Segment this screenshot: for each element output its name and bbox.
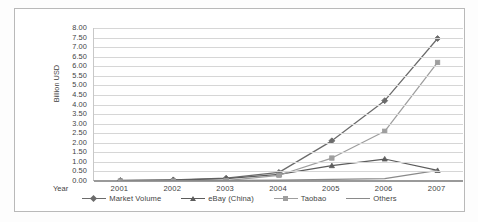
- y-tick-label: 7.50: [72, 34, 87, 42]
- y-tick-label: 1.00: [72, 158, 87, 166]
- data-point: [435, 60, 439, 64]
- y-tick-label: 2.50: [72, 129, 87, 137]
- gridline: [94, 47, 463, 48]
- gridline: [94, 95, 463, 96]
- y-tick-label: 5.00: [72, 81, 87, 89]
- series-line: [120, 39, 437, 181]
- data-point: [277, 173, 281, 177]
- y-tick-label: 7.00: [72, 43, 87, 51]
- y-tick-label: 8.00: [72, 24, 87, 32]
- series-line: [120, 62, 437, 181]
- y-tick-label: 4.00: [72, 101, 87, 109]
- y-tick-label: 6.00: [72, 62, 87, 70]
- gridline: [94, 114, 463, 115]
- y-tick-label: 2.00: [72, 139, 87, 147]
- y-tick-label: 4.50: [72, 91, 87, 99]
- gridline: [94, 28, 463, 29]
- chart-frame: Billion USD 8.007.507.006.506.005.505.00…: [14, 8, 465, 212]
- gridline: [94, 57, 463, 58]
- chart-legend: Market VolumeeBay (China)TaobaoOthers: [14, 191, 465, 205]
- gridline: [94, 181, 463, 182]
- gridline: [94, 85, 463, 86]
- legend-item-taobao[interactable]: Taobao: [274, 194, 327, 203]
- y-tick-label: 6.50: [72, 53, 87, 61]
- legend-swatch-ebay-china: [181, 194, 205, 203]
- legend-label: eBay (China): [208, 194, 254, 203]
- legend-item-ebay-china[interactable]: eBay (China): [181, 194, 254, 203]
- data-point: [330, 156, 334, 160]
- gridline: [94, 152, 463, 153]
- y-tick-label: 1.50: [72, 148, 87, 156]
- legend-swatch-market-volume: [82, 194, 106, 203]
- series-taobao: [118, 60, 440, 181]
- legend-item-market-volume[interactable]: Market Volume: [82, 194, 161, 203]
- y-tick-label: 5.50: [72, 72, 87, 80]
- legend-swatch-taobao: [274, 194, 298, 203]
- y-axis-tick-labels: 8.007.507.006.506.005.505.004.504.003.50…: [15, 28, 89, 181]
- y-tick-label: 3.50: [72, 110, 87, 118]
- gridline: [94, 133, 463, 134]
- gridline: [94, 76, 463, 77]
- gridline: [94, 105, 463, 106]
- gridline: [94, 143, 463, 144]
- legend-label: Taobao: [301, 194, 327, 203]
- legend-label: Others: [373, 194, 396, 203]
- gridline: [94, 38, 463, 39]
- gridline: [94, 171, 463, 172]
- legend-label: Market Volume: [109, 194, 161, 203]
- y-tick-label: 0.00: [72, 177, 87, 185]
- gridline: [94, 162, 463, 163]
- gridline: [94, 66, 463, 67]
- legend-item-others[interactable]: Others: [346, 194, 396, 203]
- plot-area: [93, 28, 463, 181]
- y-tick-label: 0.50: [72, 167, 87, 175]
- legend-swatch-others: [346, 194, 370, 203]
- y-tick-label: 3.00: [72, 120, 87, 128]
- chart-screenshot: Billion USD 8.007.507.006.506.005.505.00…: [0, 0, 478, 222]
- gridline: [94, 124, 463, 125]
